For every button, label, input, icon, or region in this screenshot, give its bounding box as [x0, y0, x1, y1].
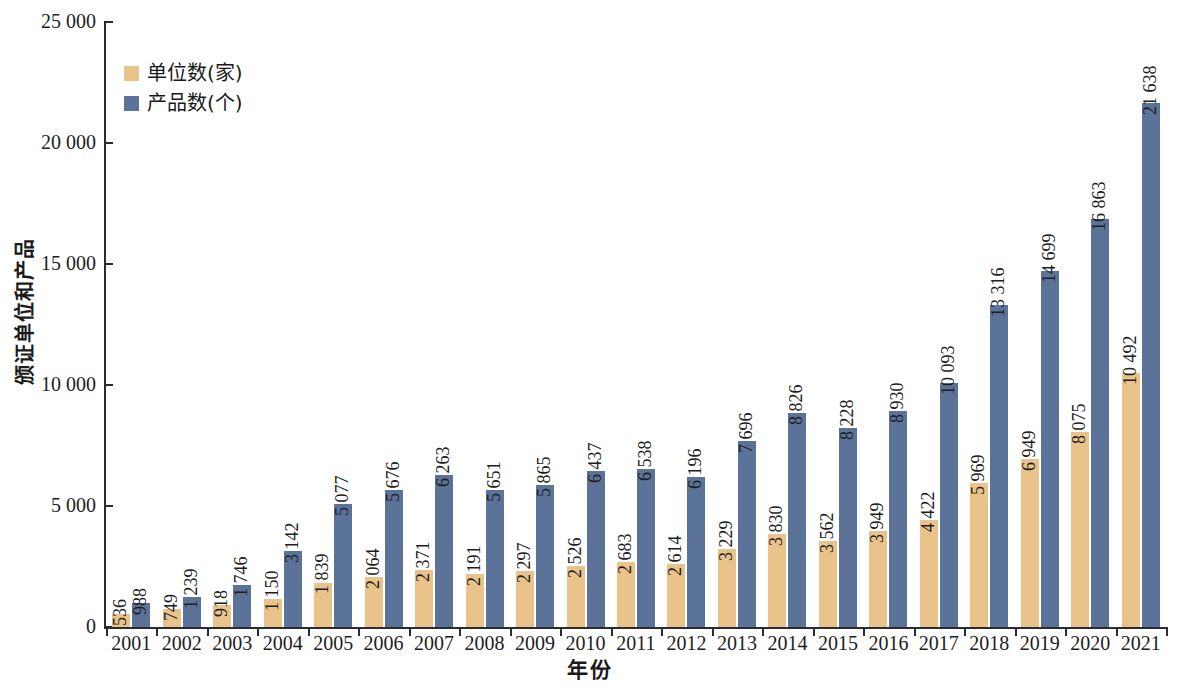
bar-value-label: 1 239: [182, 569, 200, 610]
bar-value-label: 8 930: [888, 382, 906, 423]
bar[interactable]: [768, 534, 786, 627]
bar[interactable]: [1091, 219, 1109, 627]
bar-value-label: 10 093: [939, 345, 957, 395]
bar-value-label: 2 064: [364, 549, 382, 590]
bar[interactable]: [990, 305, 1008, 627]
bar-value-label: 536: [111, 599, 129, 626]
bar-value-label: 3 142: [283, 522, 301, 563]
bar-value-label: 6 538: [636, 440, 654, 481]
bars-layer: 5369887491 2399181 7461 1503 1421 8395 0…: [0, 0, 1179, 694]
bar[interactable]: [839, 428, 857, 627]
bar-value-label: 2 371: [414, 541, 432, 582]
bar-value-label: 6 437: [586, 443, 604, 484]
bar[interactable]: [819, 541, 837, 627]
bar[interactable]: [738, 441, 756, 627]
bar-value-label: 988: [131, 588, 149, 615]
bar[interactable]: [869, 531, 887, 627]
bar[interactable]: [385, 490, 403, 627]
bar-value-label: 1 839: [313, 554, 331, 595]
bar[interactable]: [1142, 103, 1160, 627]
bar[interactable]: [1041, 271, 1059, 627]
bar-value-label: 3 830: [767, 506, 785, 547]
bar-value-label: 6 196: [686, 449, 704, 490]
bar[interactable]: [788, 413, 806, 627]
bar-value-label: 8 826: [787, 385, 805, 426]
bar-value-label: 2 297: [515, 543, 533, 584]
bar[interactable]: [334, 504, 352, 627]
bar-value-label: 2 191: [465, 545, 483, 586]
bar[interactable]: [920, 520, 938, 627]
bar-value-label: 1 746: [232, 556, 250, 597]
bar[interactable]: [940, 383, 958, 627]
bar-value-label: 13 316: [989, 267, 1007, 317]
bar-value-label: 3 229: [717, 520, 735, 561]
bar[interactable]: [587, 471, 605, 627]
bar-value-label: 8 228: [838, 399, 856, 440]
bar-value-label: 6 263: [434, 447, 452, 488]
bar-value-label: 8 075: [1070, 403, 1088, 444]
bar-value-label: 2 683: [616, 534, 634, 575]
bar[interactable]: [1122, 373, 1140, 627]
bar-value-label: 3 949: [868, 503, 886, 544]
bar-value-label: 5 676: [384, 461, 402, 502]
bar-value-label: 918: [212, 590, 230, 617]
bar[interactable]: [687, 477, 705, 627]
bar[interactable]: [889, 411, 907, 627]
bar-value-label: 2 614: [666, 535, 684, 576]
bar-value-label: 7 696: [737, 412, 755, 453]
bar-value-label: 16 863: [1090, 181, 1108, 231]
bar-value-label: 10 492: [1121, 336, 1139, 386]
bar-value-label: 21 638: [1141, 66, 1159, 116]
bar[interactable]: [486, 490, 504, 627]
bar-value-label: 4 422: [919, 491, 937, 532]
bar[interactable]: [1071, 432, 1089, 627]
bar[interactable]: [435, 475, 453, 627]
bar-value-label: 1 150: [263, 571, 281, 612]
bar-value-label: 5 865: [535, 457, 553, 498]
bar[interactable]: [1021, 459, 1039, 627]
bar-value-label: 5 077: [333, 476, 351, 517]
bar-chart: 05 00010 00015 00020 00025 000 200120022…: [0, 0, 1179, 694]
bar-value-label: 749: [162, 594, 180, 621]
bar[interactable]: [637, 469, 655, 627]
bar-value-label: 2 526: [566, 537, 584, 578]
bar[interactable]: [970, 483, 988, 627]
bar-value-label: 5 969: [969, 454, 987, 495]
bar-value-label: 14 699: [1040, 234, 1058, 284]
bar-value-label: 6 949: [1020, 430, 1038, 471]
bar-value-label: 5 651: [485, 462, 503, 503]
bar[interactable]: [536, 485, 554, 627]
bar-value-label: 3 562: [818, 512, 836, 553]
